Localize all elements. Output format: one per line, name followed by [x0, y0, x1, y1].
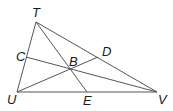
label-c: C: [16, 49, 26, 64]
label-d: D: [102, 44, 111, 59]
label-t: T: [32, 5, 41, 20]
side-vt: [36, 22, 157, 92]
label-u: U: [7, 92, 17, 107]
diagram-svg: T U V C D E B: [0, 0, 173, 111]
cevian-cv: [26, 57, 157, 92]
label-v: V: [158, 92, 168, 107]
label-b: B: [69, 54, 78, 69]
cevian-ud: [17, 57, 98, 92]
triangle-diagram: T U V C D E B: [0, 0, 173, 111]
cevian-te: [36, 22, 87, 92]
label-e: E: [83, 93, 92, 108]
